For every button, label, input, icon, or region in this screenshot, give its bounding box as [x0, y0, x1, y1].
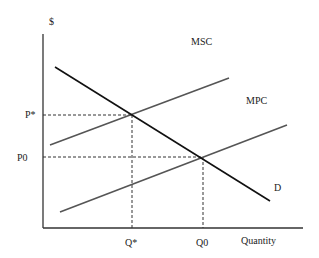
demand-label: D	[274, 182, 281, 193]
externality-diagram: $ MSC MPC D P* P0 Q* Q0 Quantity	[0, 0, 319, 258]
x-axis-label: Quantity	[241, 235, 276, 246]
q-zero-label: Q0	[196, 237, 208, 248]
mpc-curve	[60, 125, 287, 212]
y-axis-label: $	[49, 16, 54, 27]
q-star-label: Q*	[125, 237, 137, 248]
mpc-label: MPC	[246, 95, 267, 106]
msc-curve	[50, 78, 229, 145]
msc-label: MSC	[191, 36, 212, 47]
p-zero-label: P0	[17, 152, 28, 163]
demand-curve	[55, 67, 270, 201]
p-star-label: P*	[25, 109, 36, 120]
